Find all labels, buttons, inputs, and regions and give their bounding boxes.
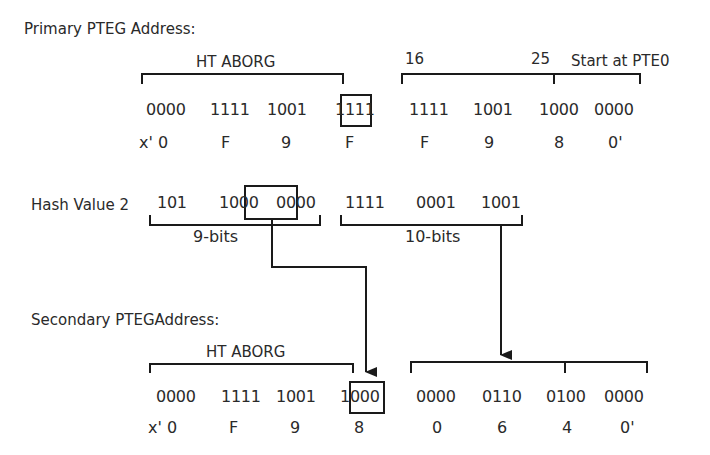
secondary-bits-5: 0110 (482, 389, 522, 405)
secondary-hex-5: 6 (497, 420, 507, 436)
primary-index-bracket (402, 74, 640, 84)
hash-bits-1: 1000 (219, 195, 259, 211)
primary-bits-7: 0000 (594, 102, 634, 118)
primary-range-note: Start at PTE0 (571, 54, 669, 69)
hash-label: Hash Value 2 (31, 198, 129, 213)
hash-bits-3: 1111 (345, 195, 385, 211)
hash-bits-4: 0001 (416, 195, 456, 211)
secondary-bits-1: 1111 (221, 389, 261, 405)
primary-bits-4: 1111 (409, 102, 449, 118)
secondary-bits-7: 0000 (604, 389, 644, 405)
primary-hex-7: 0' (608, 135, 623, 151)
secondary-hex-0: x' 0 (148, 420, 177, 436)
secondary-htaborg-label: HT ABORG (206, 345, 285, 360)
secondary-bits-4: 0000 (416, 389, 456, 405)
primary-hex-3: F (345, 135, 354, 151)
primary-bits-0: 0000 (146, 102, 186, 118)
primary-title: Primary PTEG Address: (24, 22, 196, 37)
secondary-hex-4: 0 (432, 420, 442, 436)
primary-bits-5: 1001 (473, 102, 513, 118)
primary-htaborg-bracket (142, 74, 343, 84)
primary-hex-1: F (221, 135, 230, 151)
secondary-bits-0: 0000 (156, 389, 196, 405)
secondary-bits-3: 1000 (340, 389, 380, 405)
hash-bits-5: 1001 (481, 195, 521, 211)
secondary-hex-1: F (229, 420, 238, 436)
secondary-hex-7: 0' (620, 420, 635, 436)
hash-bits-0: 101 (157, 195, 187, 211)
hash-9bits-label: 9-bits (193, 229, 238, 245)
hash-10bits-label: 10-bits (405, 229, 460, 245)
hash-10bit-bracket (341, 215, 522, 225)
primary-bits-6: 1000 (539, 102, 579, 118)
primary-range-end: 25 (531, 52, 550, 67)
primary-hex-4: F (420, 135, 429, 151)
primary-hex-5: 9 (484, 135, 494, 151)
secondary-hex-2: 9 (290, 420, 300, 436)
secondary-htaborg-bracket (150, 364, 353, 373)
secondary-bits-6: 0100 (546, 389, 586, 405)
primary-bits-1: 1111 (210, 102, 250, 118)
primary-bits-3: 1111 (335, 102, 375, 118)
secondary-index-bracket (411, 362, 647, 373)
primary-hex-2: 9 (281, 135, 291, 151)
hash-bits-2: 0000 (276, 195, 316, 211)
secondary-bits-2: 1001 (276, 389, 316, 405)
secondary-title: Secondary PTEGAddress: (31, 313, 219, 328)
connector-hash-to-secondary-high (272, 219, 366, 372)
primary-hex-0: x' 0 (139, 135, 168, 151)
primary-htaborg-label: HT ABORG (196, 55, 275, 70)
secondary-hex-3: 8 (354, 420, 364, 436)
primary-bits-2: 1001 (267, 102, 307, 118)
secondary-hex-6: 4 (562, 420, 572, 436)
primary-range-start: 16 (405, 52, 424, 67)
primary-hex-6: 8 (554, 135, 564, 151)
